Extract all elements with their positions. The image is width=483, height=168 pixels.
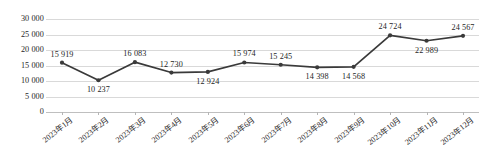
data-point-marker: [206, 70, 210, 74]
axis-baseline: [46, 112, 479, 113]
x-axis-tick-label: 2023年10月: [367, 116, 403, 147]
y-axis-tick-label: 20 000: [0, 46, 44, 54]
data-point-label: 15 919: [50, 51, 73, 59]
series-line: [46, 19, 479, 112]
x-axis-tick-label: 2023年3月: [115, 116, 148, 144]
data-point-marker: [169, 70, 173, 74]
x-axis-tick: [390, 112, 391, 115]
x-axis-tick-label: 2023年6月: [224, 116, 257, 144]
x-axis-tick-label: 2023年9月: [333, 116, 366, 144]
x-axis-tick: [171, 112, 172, 115]
x-axis-tick-label: 2023年1月: [42, 116, 75, 144]
data-point-marker: [133, 60, 137, 64]
plot-area: 15 91910 23716 08312 73012 92415 97415 2…: [46, 19, 479, 112]
data-point-marker: [461, 34, 465, 38]
data-point-marker: [424, 39, 428, 43]
x-axis-tick-label: 2023年7月: [260, 116, 293, 144]
x-axis-tick-label: 2023年4月: [151, 116, 184, 144]
y-axis-tick-label: 30 000: [0, 15, 44, 23]
data-point-label: 24 724: [379, 23, 402, 31]
y-axis-tick-label: 5 000: [0, 93, 44, 101]
data-point-marker: [388, 33, 392, 37]
x-axis-tick: [62, 112, 63, 115]
x-axis-tick: [135, 112, 136, 115]
x-axis-tick: [463, 112, 464, 115]
x-axis-tick: [208, 112, 209, 115]
data-point-marker: [315, 65, 319, 69]
x-axis-tick: [98, 112, 99, 115]
data-point-marker: [242, 60, 246, 64]
x-axis-tick: [317, 112, 318, 115]
data-point-marker: [279, 63, 283, 67]
data-point-label: 12 924: [196, 78, 219, 86]
x-axis-tick: [244, 112, 245, 115]
data-point-label: 15 974: [233, 50, 256, 58]
y-axis-tick-label: 10 000: [0, 77, 44, 85]
x-axis-tick: [354, 112, 355, 115]
y-axis-tick-label: 15 000: [0, 62, 44, 70]
x-axis-tick-label: 2023年2月: [78, 116, 111, 144]
data-point-marker: [352, 65, 356, 69]
data-point-label: 24 567: [451, 24, 474, 32]
x-axis-tick: [281, 112, 282, 115]
line-chart: 30 00025 00020 00015 00010 0005 0000 15 …: [0, 0, 483, 168]
data-point-marker: [96, 78, 100, 82]
data-point-label: 14 568: [342, 73, 365, 81]
data-point-label: 22 989: [415, 47, 438, 55]
x-axis-tick-label: 2023年11月: [403, 116, 439, 147]
data-point-label: 14 398: [306, 73, 329, 81]
data-point-label: 10 237: [87, 86, 110, 94]
x-axis-tick-label: 2023年5月: [187, 116, 220, 144]
y-axis-tick-label: 0: [0, 108, 44, 116]
data-point-label: 16 083: [123, 50, 146, 58]
y-axis-tick-label: 25 000: [0, 31, 44, 39]
x-axis-tick-label: 2023年8月: [297, 116, 330, 144]
data-point-label: 15 245: [269, 53, 292, 61]
data-point-label: 12 730: [160, 61, 183, 69]
x-axis-tick: [427, 112, 428, 115]
x-axis-tick-label: 2023年12月: [439, 116, 475, 147]
data-point-marker: [60, 61, 64, 65]
